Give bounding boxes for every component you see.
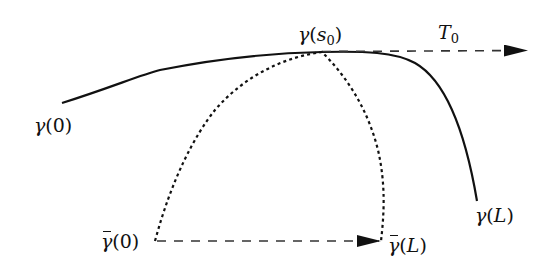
label-gamma-L: γ(L) [475, 206, 514, 225]
label-gamma-0: γ(0) [34, 116, 72, 135]
gamma-bar-curve [155, 52, 384, 241]
label-gamma-bar-L: γ(L) [388, 236, 427, 255]
gamma-bar-0-arg: (0) [112, 230, 139, 252]
gamma-symbol: γ [475, 204, 486, 226]
paren-open: ( [309, 23, 316, 45]
gamma-curve [62, 52, 477, 201]
subscript: 0 [327, 33, 335, 48]
gamma-symbol: γ [298, 23, 309, 45]
t-symbol: T [438, 21, 451, 43]
paren-close: ) [506, 204, 513, 226]
gamma-0-arg: (0) [45, 114, 72, 136]
gamma-bar-symbol: γ [101, 232, 112, 251]
paren-close: ) [419, 234, 426, 256]
paren-open: ( [399, 234, 406, 256]
gamma-bar-symbol: γ [388, 236, 399, 255]
label-tangent-t0: T0 [438, 23, 459, 45]
label-gamma-bar-0: γ(0) [101, 232, 139, 251]
s-variable: s [317, 23, 327, 45]
paren-open: ( [486, 204, 493, 226]
l-variable: L [407, 234, 420, 256]
label-gamma-s0: γ(s0) [298, 25, 342, 47]
curve-diagram [0, 0, 558, 273]
paren-close: ) [335, 23, 342, 45]
subscript: 0 [451, 31, 459, 46]
l-variable: L [494, 204, 507, 226]
gamma-symbol: γ [34, 114, 45, 136]
